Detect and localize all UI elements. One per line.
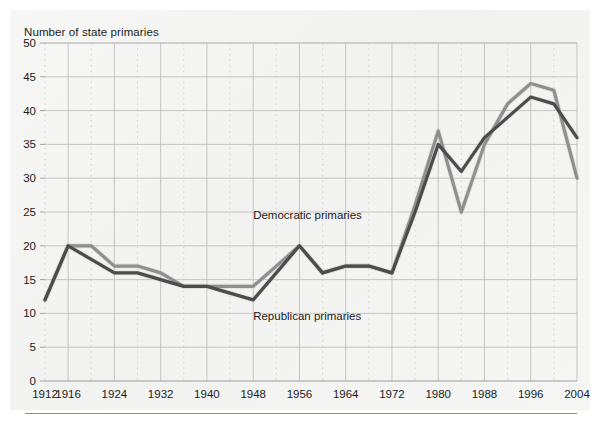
x-axis-tick-label: 2004	[564, 388, 590, 400]
y-axis-tick-label: 5	[30, 341, 36, 353]
y-axis-tick-label: 15	[23, 274, 36, 286]
y-axis-tick-label: 45	[23, 71, 36, 83]
y-axis-tick-label: 30	[23, 172, 36, 184]
x-axis-tick-label: 1932	[148, 388, 174, 400]
series-lines-group	[45, 84, 577, 300]
x-axis-tick-label: 1948	[240, 388, 266, 400]
x-axis-tick-label: 1996	[518, 388, 544, 400]
x-axis-tick-label: 1916	[55, 388, 81, 400]
y-axis-tick-label: 25	[23, 206, 36, 218]
x-axis-tick-label: 1972	[379, 388, 405, 400]
bottom-rule	[25, 413, 577, 414]
x-axis-tick-label: 1980	[425, 388, 451, 400]
x-axis-tick-label: 1964	[333, 388, 359, 400]
x-axis-tick-label: 1940	[194, 388, 220, 400]
series-line	[45, 84, 577, 300]
line-chart-plot: 05101520253035404550 1912191619241932194…	[0, 0, 600, 428]
x-axis-tick-label: 1912	[32, 388, 58, 400]
series-annotation-label: Republican primaries	[253, 310, 361, 322]
y-axis-tick-label: 50	[23, 37, 36, 49]
y-axis-tick-labels: 05101520253035404550	[23, 37, 45, 387]
y-axis-tick-label: 10	[23, 307, 36, 319]
x-axis-tick-labels: 1912191619241932194019481956196419721980…	[32, 388, 590, 400]
y-axis-tick-label: 20	[23, 240, 36, 252]
y-axis-tick-label: 35	[23, 138, 36, 150]
x-axis-tick-label: 1924	[102, 388, 128, 400]
x-axis-tick-label: 1988	[472, 388, 498, 400]
chart-figure: Number of state primaries 05101520253035…	[0, 0, 600, 428]
x-axis-tick-label: 1956	[287, 388, 313, 400]
series-line	[45, 97, 577, 300]
y-axis-tick-label: 0	[30, 375, 36, 387]
y-axis-tick-label: 40	[23, 105, 36, 117]
series-annotation-label: Democratic primaries	[253, 209, 362, 221]
